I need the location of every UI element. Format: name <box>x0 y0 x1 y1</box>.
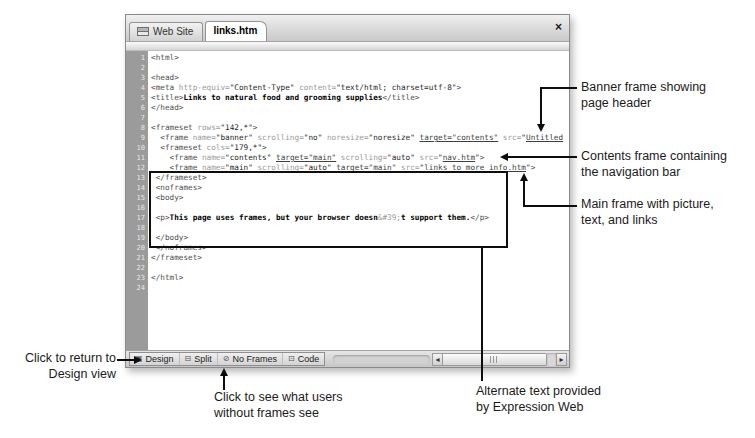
line-number: 10 <box>126 143 145 153</box>
callout-main-frame: Main frame with picture, text, and links <box>581 197 714 228</box>
line-number: 13 <box>126 173 145 183</box>
split-view-icon: ⊟ <box>185 355 192 363</box>
contents-arrow-line <box>508 156 577 158</box>
banner-arrowhead-icon <box>537 124 545 132</box>
code-line: <frameset rows="142,*"> <box>151 123 569 133</box>
contents-arrowhead-icon <box>500 153 508 161</box>
alt-text-pointer-line <box>481 248 483 381</box>
code-line: <frame name="banner" scrolling="no" nore… <box>151 133 569 143</box>
code-line: <head> <box>151 73 569 83</box>
code-line: <title>Links to natural food and groomin… <box>151 93 569 103</box>
line-number: 23 <box>126 273 145 283</box>
code-line <box>151 283 569 293</box>
main-arrow-stem <box>523 181 525 207</box>
line-number: 3 <box>126 73 145 83</box>
callout-no-frames: Click to see what users without frames s… <box>214 390 343 421</box>
close-icon[interactable]: × <box>555 21 562 33</box>
line-number: 1 <box>126 53 145 63</box>
code-line <box>151 63 569 73</box>
line-number: 6 <box>126 103 145 113</box>
banner-arrow-stem <box>540 87 542 124</box>
line-number: 18 <box>126 223 145 233</box>
view-switch-bar: ▣Design⊟Split⊘No Frames⊡Code ◂ ▸ <box>126 350 569 367</box>
line-number: 8 <box>126 123 145 133</box>
scrollbar-thumb[interactable] <box>443 353 547 366</box>
main-arrowhead-icon <box>520 173 528 181</box>
code-view-icon: ⊡ <box>288 355 295 363</box>
line-number: 12 <box>126 163 145 173</box>
view-button-label: No Frames <box>233 354 278 364</box>
line-number: 21 <box>126 253 145 263</box>
tab-links-htm-label: links.htm <box>213 25 257 36</box>
scrollbar-groove <box>333 355 430 364</box>
line-number: 16 <box>126 203 145 213</box>
design-arrow-line <box>117 359 135 361</box>
line-number: 15 <box>126 193 145 203</box>
view-button-label: Code <box>298 354 320 364</box>
code-line: </html> <box>151 273 569 283</box>
scroll-right-icon[interactable]: ▸ <box>556 353 567 366</box>
line-number: 24 <box>126 283 145 293</box>
code-line: <meta http-equiv="Content-Type" content=… <box>151 83 569 93</box>
line-number: 14 <box>126 183 145 193</box>
document-tab-bar: Web Site links.htm × <box>126 15 569 42</box>
line-number: 20 <box>126 243 145 253</box>
code-line: </frameset> <box>151 253 569 263</box>
line-number-gutter: 123456789101112131415161718192021222324 <box>126 51 148 350</box>
code-line <box>151 263 569 273</box>
line-number: 11 <box>126 153 145 163</box>
code-line: </head> <box>151 103 569 113</box>
horizontal-scrollbar: ◂ ▸ <box>432 353 567 366</box>
noframes-arrow-stem <box>223 375 225 390</box>
callout-design-view: Click to return to Design view <box>20 351 116 382</box>
view-button-no-frames[interactable]: ⊘No Frames <box>218 353 283 365</box>
view-button-group: ▣Design⊟Split⊘No Frames⊡Code <box>129 352 325 366</box>
noframes-highlight-box <box>149 171 508 248</box>
no-frames-view-icon: ⊘ <box>223 355 230 363</box>
tab-web-site-label: Web Site <box>153 26 193 37</box>
scrollbar-grip-icon <box>490 356 499 363</box>
view-button-label: Split <box>194 354 212 364</box>
line-number: 9 <box>126 133 145 143</box>
web-site-icon <box>137 27 149 36</box>
page: Web Site links.htm × 1234567891011121314… <box>0 0 755 438</box>
design-arrowhead-icon <box>134 356 142 364</box>
tab-web-site[interactable]: Web Site <box>129 22 203 41</box>
main-arrow-line <box>523 205 577 207</box>
callout-contents-frame: Contents frame containing the navigation… <box>581 149 727 180</box>
code-line: <html> <box>151 53 569 63</box>
line-number: 7 <box>126 113 145 123</box>
quick-tag-strip <box>126 42 569 51</box>
line-number: 17 <box>126 213 145 223</box>
code-line: <frameset cols="179,*"> <box>151 143 569 153</box>
noframes-arrowhead-icon <box>220 368 228 376</box>
line-number: 19 <box>126 233 145 243</box>
line-number: 22 <box>126 263 145 273</box>
line-number: 4 <box>126 83 145 93</box>
view-button-split[interactable]: ⊟Split <box>180 353 218 365</box>
line-number: 5 <box>126 93 145 103</box>
banner-arrow-line <box>540 87 577 89</box>
callout-alternate-text: Alternate text provided by Expression We… <box>476 384 601 415</box>
scroll-left-icon[interactable]: ◂ <box>432 353 443 366</box>
code-line <box>151 113 569 123</box>
view-button-label: Design <box>146 354 174 364</box>
tab-links-htm[interactable]: links.htm <box>205 21 267 41</box>
view-button-code[interactable]: ⊡Code <box>283 353 324 365</box>
scrollbar-track[interactable] <box>547 353 556 366</box>
callout-banner-frame: Banner frame showing page header <box>581 80 706 111</box>
line-number: 2 <box>126 63 145 73</box>
